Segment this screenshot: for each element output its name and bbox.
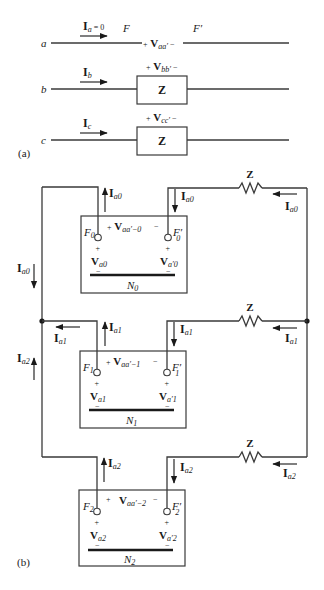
current-label-ia1-right: Ia1 (285, 331, 298, 346)
minus-left-0: − (96, 267, 101, 276)
resistor-label-2: Z (246, 437, 253, 449)
terminal-f1 (94, 369, 101, 376)
current-label-ia2-left: Ia2 (17, 351, 30, 366)
phase-c-label: c (41, 134, 46, 146)
current-label-ia0-up: Ia0 (109, 186, 122, 201)
part-a: a Ia = 0 F F′ + Vaa′ − b Z Ib + Vbb′ − c (18, 19, 289, 160)
plus-left-2: + (95, 518, 100, 527)
phase-a-label: a (41, 37, 47, 49)
minus-left-2: − (95, 541, 100, 550)
minus-sign-1: − (153, 357, 158, 366)
minus-right-0: − (166, 267, 171, 276)
minus-right-2: − (165, 541, 170, 550)
phase-a-line: a Ia = 0 F F′ + Vaa′ − (41, 19, 289, 51)
resistor-z-1 (239, 316, 262, 326)
impedance-label-c: Z (158, 134, 166, 148)
plus-left-0: + (96, 244, 101, 253)
resistor-z-0 (239, 183, 262, 193)
voltage-vbb: + Vbb′ − (146, 60, 178, 74)
network-n1: Z F1 F′1 + Vaa′−1 − + + Va1 Va′1 − − N1 … (42, 301, 307, 428)
part-b-label: (b) (17, 556, 30, 569)
minus-sign-2: − (153, 495, 158, 504)
plus-between-2: + (106, 495, 111, 504)
network-n0: Z F0 F′0 + Vaa′−0 − + + Va0 Va′0 − − N0 (42, 168, 307, 293)
current-label-ia0-left: Ia0 (17, 261, 30, 276)
phase-b-line: b Z Ib + Vbb′ − (41, 60, 289, 104)
fault-point-f: F (122, 22, 130, 34)
network-n2: Z F2 F′2 + Vaa′−2 − + + Va2 Va′2 − − N2 … (42, 437, 307, 567)
plus-left-1: + (95, 379, 100, 388)
minus-sign-0: − (154, 222, 159, 231)
current-label-ia: Ia = 0 (83, 19, 104, 34)
plus-right-2: + (165, 518, 170, 527)
terminal-f2 (94, 508, 101, 515)
terminal-f1-prime (164, 369, 171, 376)
current-label-ic: Ic (83, 116, 92, 131)
current-label-ia1-left: Ia1 (54, 331, 67, 346)
plus-right-1: + (165, 379, 170, 388)
current-label-ia2-up: Ia2 (108, 456, 121, 471)
voltage-vcc: + Vcc′ − (146, 111, 177, 125)
part-b: Ia0 Ia2 Z F0 F′0 + Vaa′−0 − (17, 168, 310, 569)
current-label-ib: Ib (83, 65, 92, 80)
phase-c-line: c Z Ic + Vcc′ − (41, 111, 289, 155)
phase-b-label: b (41, 83, 47, 95)
current-label-ia0-right: Ia0 (285, 199, 298, 214)
current-label-ia0-down: Ia0 (181, 189, 194, 204)
plus-right-0: + (166, 244, 171, 253)
terminal-f0-prime (165, 234, 172, 241)
terminal-f2-prime (164, 508, 171, 515)
terminal-f0 (95, 234, 102, 241)
fault-point-f-prime: F′ (192, 22, 203, 34)
circuit-diagram: a Ia = 0 F F′ + Vaa′ − b Z Ib + Vbb′ − c (0, 0, 324, 590)
impedance-label-b: Z (158, 83, 166, 97)
minus-right-1: − (165, 402, 170, 411)
current-label-ia2-right: Ia2 (283, 466, 296, 481)
current-label-ia1-down: Ia1 (180, 322, 193, 337)
minus-left-1: − (95, 402, 100, 411)
part-a-label: (a) (18, 147, 31, 160)
resistor-label-1: Z (246, 301, 253, 313)
resistor-label-0: Z (246, 168, 253, 180)
resistor-z-2 (239, 452, 262, 462)
voltage-vaa: + Vaa′ − (143, 37, 175, 51)
current-label-ia2-down: Ia2 (180, 460, 193, 475)
current-label-ia1-up: Ia1 (109, 320, 122, 335)
